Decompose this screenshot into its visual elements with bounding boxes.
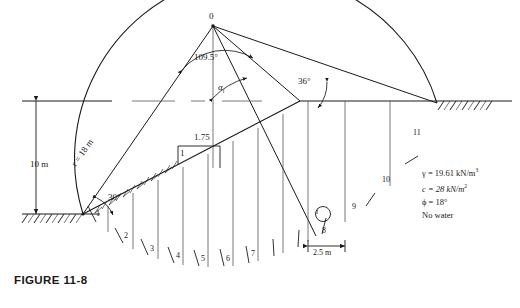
center-point-marker (211, 24, 215, 28)
unit-weight-exponent: 3 (475, 167, 478, 173)
toe-point-marker (81, 212, 84, 215)
slice-label-2: 2 (124, 232, 128, 240)
toe-angle-label: 30° (108, 193, 121, 202)
slice-label-6: 6 (226, 255, 230, 263)
height-label: 10 m (30, 160, 48, 169)
slice-label-11: 11 (413, 129, 421, 137)
lower-ground-hatching (22, 214, 82, 223)
water-condition-line: No water (422, 209, 478, 222)
slice-label-5: 5 (201, 255, 205, 263)
slice-label-1: 1 (96, 210, 100, 218)
radius-lines (83, 26, 437, 236)
slice-label-3: 3 (150, 245, 154, 253)
slice-label-9: 9 (352, 203, 356, 211)
soil-properties-block: γ = 19.61 kN/m3 c = 28 kN/m2 ϕ = 18° No … (422, 164, 478, 222)
slice-label-10: 10 (382, 176, 390, 184)
cohesion-line: c = 28 kN/m2 (422, 180, 478, 196)
slice-label-8: 8 (322, 227, 326, 235)
radius-slice-i (213, 26, 316, 236)
slice-width-label: 2.5 m (313, 249, 331, 257)
crest-angle-label: 36° (298, 77, 311, 86)
friction-angle-line: ϕ = 18° (422, 196, 478, 209)
height-dimension (22, 101, 112, 214)
slice-label-7: 7 (251, 250, 255, 258)
alpha-i-label: αi (218, 83, 224, 95)
arc-36 (318, 82, 327, 108)
radius-to-crest-exit (213, 26, 437, 103)
radius-to-crest (213, 26, 300, 101)
slope-rise-label: 1 (180, 149, 185, 158)
slice-i-label: i (316, 208, 318, 216)
arc-angle-label: 109.5° (194, 53, 218, 62)
alpha-subscript: i (223, 88, 225, 94)
cohesion-exponent: 2 (464, 183, 467, 189)
apex-label: 0 (209, 12, 214, 21)
slope-run-label: 1.75 (194, 133, 210, 142)
unit-weight-line: γ = 19.61 kN/m3 (422, 164, 478, 180)
slice-label-4: 4 (176, 252, 180, 260)
figure-caption: FIGURE 11-8 (14, 274, 87, 286)
slice-division-lines (108, 101, 390, 267)
upper-ground-hatching (438, 101, 492, 110)
